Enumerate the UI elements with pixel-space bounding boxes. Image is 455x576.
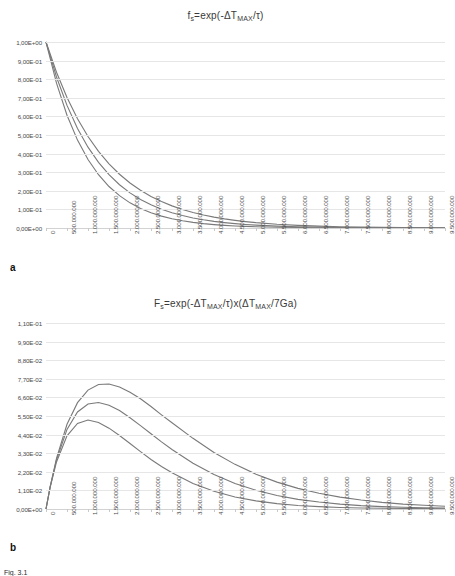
x-tick-label: 7.500.000.000 bbox=[364, 196, 371, 234]
chart-b-title-end: /7Ga) bbox=[271, 298, 297, 309]
x-tick-label: 9.000.000.000 bbox=[427, 477, 434, 515]
x-tick-label: 1.000.000.000 bbox=[91, 477, 98, 515]
x-tick bbox=[193, 228, 194, 231]
x-tick bbox=[172, 228, 173, 231]
chart-b-title-mid: =exp(-ΔT bbox=[164, 298, 207, 309]
x-tick bbox=[130, 228, 131, 231]
x-tick bbox=[382, 509, 383, 512]
chart-b-title-tail-sub: MAX bbox=[255, 303, 271, 310]
chart-a-title-mid-sub: MAX bbox=[237, 15, 253, 22]
x-tick bbox=[340, 509, 341, 512]
x-tick-label: 5.000.000.000 bbox=[259, 196, 266, 234]
x-tick-label: 6.500.000.000 bbox=[322, 196, 329, 234]
x-tick bbox=[256, 228, 257, 231]
chart-b-x-axis-labels: 0500.000.0001.000.000.0001.500.000.0002.… bbox=[46, 513, 445, 569]
x-tick-label: 4.000.000.000 bbox=[217, 477, 224, 515]
x-tick bbox=[151, 509, 152, 512]
y-tick-label: 4,00E-01 bbox=[18, 150, 42, 157]
x-tick bbox=[319, 228, 320, 231]
x-tick-label: 7.500.000.000 bbox=[364, 477, 371, 515]
x-tick-label: 2.000.000.000 bbox=[133, 196, 140, 234]
x-tick bbox=[382, 228, 383, 231]
y-tick-label: 1,00E-01 bbox=[18, 206, 42, 213]
panel-letter-a: a bbox=[10, 262, 16, 273]
gridline bbox=[46, 98, 445, 99]
x-tick bbox=[46, 228, 47, 231]
x-tick bbox=[403, 509, 404, 512]
x-tick-label: 0 bbox=[49, 512, 56, 515]
x-tick bbox=[298, 228, 299, 231]
x-tick-label: 9.000.000.000 bbox=[427, 196, 434, 234]
gridline bbox=[46, 116, 445, 117]
x-tick bbox=[340, 228, 341, 231]
x-tick bbox=[235, 228, 236, 231]
x-tick-label: 4.000.000.000 bbox=[217, 196, 224, 234]
x-tick-label: 5.500.000.000 bbox=[280, 196, 287, 234]
x-tick bbox=[109, 509, 110, 512]
gridline bbox=[46, 323, 445, 324]
x-tick bbox=[277, 509, 278, 512]
x-tick bbox=[424, 509, 425, 512]
chart-a-title-mid: =exp(-ΔT bbox=[194, 10, 237, 21]
gridline bbox=[46, 435, 445, 436]
x-tick-label: 3.000.000.000 bbox=[175, 477, 182, 515]
y-tick-label: 5,00E-01 bbox=[18, 132, 42, 139]
x-tick bbox=[151, 228, 152, 231]
x-tick-label: 500.000.000 bbox=[70, 201, 77, 234]
y-tick-label: 0,00E+00 bbox=[16, 225, 42, 232]
gridline bbox=[46, 61, 445, 62]
x-tick bbox=[319, 509, 320, 512]
x-tick bbox=[67, 509, 68, 512]
x-tick bbox=[424, 228, 425, 231]
gridline bbox=[46, 172, 445, 173]
chart-panel-b: Fs=exp(-ΔTMAX/τ)x(ΔTMAX/7Ga) 0,00E+001,1… bbox=[0, 290, 451, 562]
x-tick-label: 2.000.000.000 bbox=[133, 477, 140, 515]
x-tick bbox=[445, 509, 446, 512]
x-tick bbox=[172, 509, 173, 512]
x-tick bbox=[235, 509, 236, 512]
x-tick-label: 1.000.000.000 bbox=[91, 196, 98, 234]
x-tick-label: 4.500.000.000 bbox=[238, 196, 245, 234]
x-tick-label: 7.000.000.000 bbox=[343, 196, 350, 234]
x-tick bbox=[214, 509, 215, 512]
x-tick-label: 0 bbox=[49, 231, 56, 234]
chart-a-title: fs=exp(-ΔTMAX/τ) bbox=[0, 10, 451, 22]
gridline bbox=[46, 79, 445, 80]
gridline bbox=[46, 472, 445, 473]
x-tick-label: 6.000.000.000 bbox=[301, 196, 308, 234]
x-tick-label: 3.500.000.000 bbox=[196, 477, 203, 515]
x-tick bbox=[445, 228, 446, 231]
x-tick bbox=[193, 509, 194, 512]
chart-b-title-mid-sub: MAX bbox=[207, 303, 223, 310]
x-tick bbox=[130, 509, 131, 512]
x-tick bbox=[67, 228, 68, 231]
x-tick-label: 8.500.000.000 bbox=[406, 477, 413, 515]
gridline bbox=[46, 416, 445, 417]
y-tick-label: 3,00E-01 bbox=[18, 169, 42, 176]
gridline bbox=[46, 453, 445, 454]
x-tick-label: 5.000.000.000 bbox=[259, 477, 266, 515]
y-tick-label: 0,00E+00 bbox=[16, 506, 42, 513]
chart-b-y-axis-labels: 0,00E+001,10E-022,20E-023,30E-024,40E-02… bbox=[0, 323, 44, 509]
x-tick-label: 3.000.000.000 bbox=[175, 196, 182, 234]
x-tick bbox=[256, 509, 257, 512]
gridline bbox=[46, 154, 445, 155]
x-tick-label: 2.500.000.000 bbox=[154, 196, 161, 234]
x-tick bbox=[214, 228, 215, 231]
x-tick-label: 1.500.000.000 bbox=[112, 477, 119, 515]
x-tick bbox=[361, 228, 362, 231]
gridline bbox=[46, 135, 445, 136]
y-tick-label: 5,50E-02 bbox=[18, 413, 42, 420]
x-tick-label: 6.500.000.000 bbox=[322, 477, 329, 515]
y-tick-label: 4,40E-02 bbox=[18, 431, 42, 438]
x-tick bbox=[109, 228, 110, 231]
y-tick-label: 8,80E-02 bbox=[18, 357, 42, 364]
x-tick-label: 8.500.000.000 bbox=[406, 196, 413, 234]
y-tick-label: 9,00E-01 bbox=[18, 57, 42, 64]
x-tick bbox=[88, 509, 89, 512]
x-tick bbox=[298, 509, 299, 512]
x-tick-label: 3.500.000.000 bbox=[196, 196, 203, 234]
figure-caption: Fig. 3.1 bbox=[4, 569, 27, 576]
x-tick-label: 9.500.000.000 bbox=[448, 477, 455, 515]
y-tick-label: 6,60E-02 bbox=[18, 394, 42, 401]
